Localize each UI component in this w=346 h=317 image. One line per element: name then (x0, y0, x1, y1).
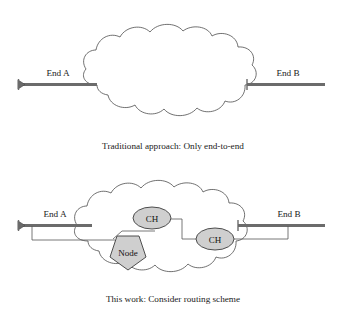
caption-traditional: Traditional approach: Only end-to-end (102, 141, 244, 151)
node-label: Node (118, 248, 138, 258)
ch-node-1: CH (133, 207, 171, 229)
end-a-label-2: End A (43, 209, 67, 219)
end-b-label-2: End B (277, 209, 300, 219)
end-a-label: End A (46, 68, 70, 78)
routing-comparison-figure: End A End B Traditional approach: Only e… (0, 0, 346, 317)
ch-node-2-label: CH (209, 235, 222, 245)
ch-node-2: CH (196, 228, 234, 250)
caption-this-work: This work: Consider routing scheme (106, 294, 240, 304)
end-b-label: End B (276, 68, 299, 78)
ch-node-1-label: CH (146, 214, 159, 224)
